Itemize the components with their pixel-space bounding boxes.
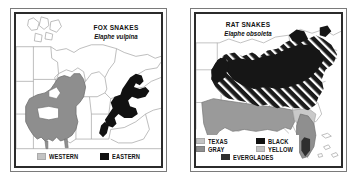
- legend-label-texas: TEXAS: [208, 138, 228, 145]
- panel-fox-snakes: FOX SNAKES Elaphe vulpina WESTERN EASTER…: [10, 8, 167, 172]
- legend-item-black: BLACK: [256, 138, 308, 145]
- legend-item-eastern: EASTERN: [100, 153, 146, 160]
- legend-swatch-yellow-icon: [256, 146, 265, 153]
- panel-rat-snakes-frame: RAT SNAKES Elaphe obsoleta TEXAS BLACK: [194, 12, 343, 168]
- panel-fox-snakes-frame: FOX SNAKES Elaphe vulpina WESTERN EASTER…: [14, 12, 163, 168]
- legend-item-western: WESTERN: [37, 153, 85, 160]
- legend-swatch-black-icon: [256, 138, 265, 145]
- fox-snakes-map-graphic: [16, 14, 161, 166]
- legend-item-gray: GRAY: [196, 146, 248, 153]
- legend-swatch-everglades-icon: [221, 154, 230, 161]
- rat-snakes-legend: TEXAS BLACK GRAY YELLOW: [204, 135, 299, 162]
- legend-row-3: EVERGLADES: [204, 154, 299, 161]
- legend-label-everglades: EVERGLADES: [233, 154, 273, 161]
- legend-label-gray: GRAY: [208, 146, 224, 153]
- legend-label-black: BLACK: [268, 138, 289, 145]
- legend-item-everglades: EVERGLADES: [221, 154, 282, 161]
- legend-swatch-texas-icon: [196, 138, 205, 145]
- legend-row-2: GRAY YELLOW: [204, 146, 299, 153]
- legend-item-texas: TEXAS: [196, 138, 248, 145]
- legend-label-western: WESTERN: [49, 153, 78, 160]
- figure-two-panel-range-maps: FOX SNAKES Elaphe vulpina WESTERN EASTER…: [0, 0, 357, 180]
- legend-row-1: TEXAS BLACK: [204, 138, 299, 145]
- legend-swatch-eastern-icon: [100, 153, 109, 160]
- panel-rat-snakes: RAT SNAKES Elaphe obsoleta TEXAS BLACK: [190, 8, 347, 172]
- legend-label-yellow: YELLOW: [268, 146, 293, 153]
- legend-swatch-gray-icon: [196, 146, 205, 153]
- fox-snakes-legend: WESTERN EASTERN: [30, 151, 153, 161]
- legend-item-yellow: YELLOW: [256, 146, 308, 153]
- legend-swatch-western-icon: [37, 153, 46, 160]
- legend-label-eastern: EASTERN: [112, 153, 140, 160]
